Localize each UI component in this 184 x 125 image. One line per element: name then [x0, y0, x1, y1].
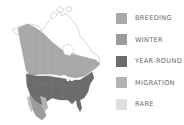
legend-item-rare: RARE — [116, 98, 184, 110]
legend-label: YEAR-ROUND — [135, 57, 182, 65]
winter-swatch — [116, 34, 127, 45]
legend-label: BREEDING — [135, 14, 172, 22]
legend-item-breeding: BREEDING — [116, 12, 184, 24]
florida — [76, 100, 82, 112]
rare-swatch — [116, 99, 127, 110]
migration-swatch — [116, 77, 127, 88]
year-round-range — [26, 72, 94, 106]
legend-label: RARE — [135, 100, 154, 108]
year-round-swatch — [116, 56, 127, 67]
legend: BREEDING WINTER YEAR-ROUND MIGRATION RAR… — [116, 12, 184, 120]
breeding-swatch — [116, 13, 127, 24]
legend-item-winter: WINTER — [116, 34, 184, 46]
legend-label: MIGRATION — [135, 79, 175, 87]
legend-label: WINTER — [135, 36, 163, 44]
range-map — [0, 0, 108, 125]
legend-item-migration: MIGRATION — [116, 77, 184, 89]
legend-item-year-round: YEAR-ROUND — [116, 55, 184, 67]
